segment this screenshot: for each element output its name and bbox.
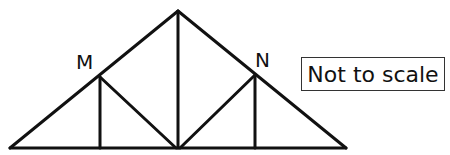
left-diagonal-M-to-center <box>100 77 176 148</box>
point-label-m: M <box>76 52 93 72</box>
point-label-n: N <box>255 50 270 70</box>
right-diagonal-center-to-N <box>180 75 255 148</box>
not-to-scale-note: Not to scale <box>301 57 445 91</box>
